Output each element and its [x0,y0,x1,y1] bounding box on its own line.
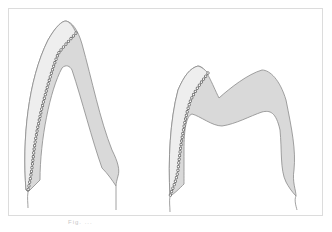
crown-diagram [0,0,332,232]
right-root-line-2 [295,196,297,210]
figure-caption: Fig. ... [0,219,332,231]
caption-text: Fig. ... [68,219,93,225]
left-crown-section [25,21,119,210]
right-crown-section [169,66,297,212]
